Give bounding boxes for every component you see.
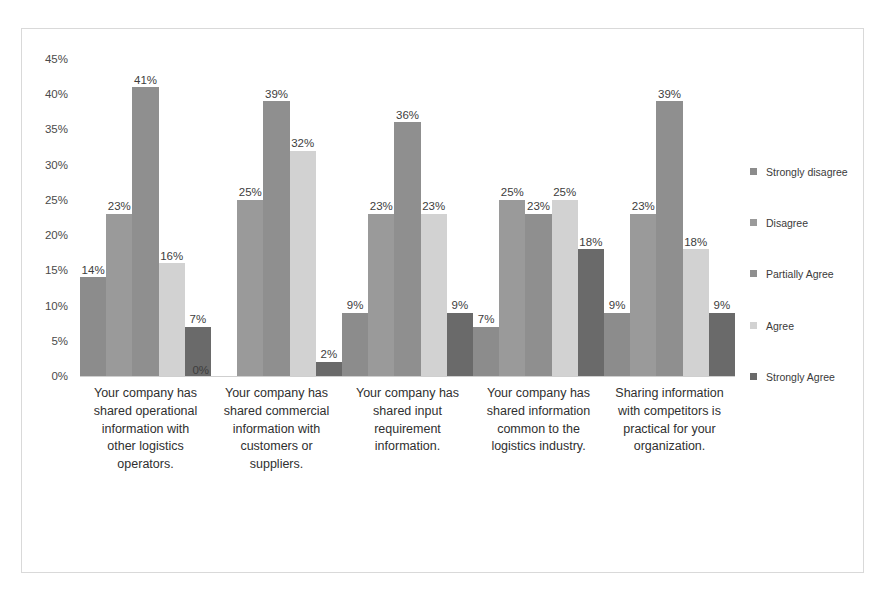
legend-item[interactable]: Disagree [750, 216, 858, 231]
bar[interactable]: 18% [683, 249, 709, 376]
chart-frame: 45%40%35%30%25%20%15%10%5%0% 14%23%41%16… [21, 28, 864, 573]
x-axis-category-label: Your company has shared operational info… [80, 385, 211, 474]
legend: Strongly disagreeDisagreePartially Agree… [750, 165, 858, 421]
bar-slot: 9% [342, 59, 368, 376]
bar-value-label: 25% [501, 187, 524, 199]
y-axis: 45%40%35%30%25%20%15%10%5%0% [22, 59, 74, 376]
bar[interactable]: 39% [263, 101, 289, 376]
bar-value-label: 41% [134, 75, 157, 87]
legend-item[interactable]: Agree [750, 319, 858, 334]
bar-value-label: 23% [527, 201, 550, 213]
bar-value-label: 18% [579, 237, 602, 249]
bar[interactable]: 9% [604, 313, 630, 376]
category-axis-line [80, 376, 735, 377]
x-axis-category-label: Your company has shared commercial infor… [211, 385, 342, 474]
bar[interactable]: 25% [237, 200, 263, 376]
bar-slot: 9% [447, 59, 473, 376]
bar-slot: 18% [683, 59, 709, 376]
legend-item[interactable]: Partially Agree [750, 267, 858, 282]
bar-slot: 25% [499, 59, 525, 376]
bar-slot: 32% [290, 59, 316, 376]
legend-item-label: Partially Agree [766, 267, 834, 282]
y-axis-tick: 35% [45, 123, 68, 135]
bar[interactable]: 7% [473, 327, 499, 376]
bar[interactable]: 18% [578, 249, 604, 376]
legend-item-label: Disagree [766, 216, 808, 231]
bar[interactable]: 25% [499, 200, 525, 376]
bar-slot: 41% [132, 59, 158, 376]
plot-area: 14%23%41%16%7%0%25%39%32%2%9%23%36%23%9%… [80, 59, 735, 376]
y-axis-tick: 40% [45, 88, 68, 100]
bar-value-label: 16% [160, 251, 183, 263]
y-axis-tick: 0% [51, 370, 68, 382]
bar-group: 14%23%41%16%7% [80, 59, 211, 376]
bar-value-label: 18% [684, 237, 707, 249]
bar-slot: 14% [80, 59, 106, 376]
bar-slot: 23% [421, 59, 447, 376]
legend-item[interactable]: Strongly Agree [750, 370, 858, 385]
bar-group: 9%23%36%23%9% [342, 59, 473, 376]
bar-slot: 0% [211, 59, 237, 376]
bar-slot: 25% [552, 59, 578, 376]
bar-value-label: 39% [265, 89, 288, 101]
bar-value-label: 39% [658, 89, 681, 101]
legend-swatch-icon [750, 270, 757, 277]
bar-slot: 36% [394, 59, 420, 376]
legend-swatch-icon [750, 373, 757, 380]
bar-group: 9%23%39%18%9% [604, 59, 735, 376]
legend-item[interactable]: Strongly disagree [750, 165, 858, 180]
bar-value-label: 7% [478, 314, 495, 326]
bar-value-label: 9% [347, 300, 364, 312]
bar[interactable]: 23% [525, 214, 551, 376]
bar-slot: 7% [185, 59, 211, 376]
bar[interactable]: 32% [290, 151, 316, 376]
y-axis-tick: 15% [45, 264, 68, 276]
bar-value-label: 32% [291, 138, 314, 150]
y-axis-tick: 25% [45, 194, 68, 206]
legend-item-label: Strongly Agree [766, 370, 835, 385]
legend-item-label: Agree [766, 319, 794, 334]
bar-value-label: 9% [714, 300, 731, 312]
y-axis-tick: 10% [45, 300, 68, 312]
bar[interactable]: 23% [368, 214, 394, 376]
bar-slot: 9% [709, 59, 735, 376]
bar-slot: 18% [578, 59, 604, 376]
bar-group-bars: 14%23%41%16%7% [80, 59, 211, 376]
bar-group-bars: 9%23%36%23%9% [342, 59, 473, 376]
bar-value-label: 23% [108, 201, 131, 213]
bar[interactable]: 23% [106, 214, 132, 376]
bar[interactable]: 23% [630, 214, 656, 376]
x-axis-category-label: Sharing information with competitors is … [604, 385, 735, 474]
bar-slot: 25% [237, 59, 263, 376]
bar-slot: 16% [159, 59, 185, 376]
bar[interactable]: 23% [421, 214, 447, 376]
bar-value-label: 23% [422, 201, 445, 213]
bar-value-label: 2% [321, 349, 338, 361]
bar-group-bars: 0%25%39%32%2% [211, 59, 342, 376]
bar[interactable]: 39% [656, 101, 682, 376]
legend-item-label: Strongly disagree [766, 165, 848, 180]
bar-slot: 23% [525, 59, 551, 376]
bar[interactable]: 9% [342, 313, 368, 376]
x-axis-labels: Your company has shared operational info… [80, 385, 735, 474]
bar[interactable]: 25% [552, 200, 578, 376]
bar-group: 0%25%39%32%2% [211, 59, 342, 376]
bar[interactable]: 41% [132, 87, 158, 376]
bar-value-label: 23% [632, 201, 655, 213]
bar-group-bars: 9%23%39%18%9% [604, 59, 735, 376]
bar[interactable]: 36% [394, 122, 420, 376]
bar-value-label: 14% [82, 265, 105, 277]
legend-swatch-icon [750, 322, 757, 329]
y-axis-tick: 45% [45, 53, 68, 65]
bar[interactable]: 2% [316, 362, 342, 376]
bar-group: 7%25%23%25%18% [473, 59, 604, 376]
bar-value-label: 7% [190, 314, 207, 326]
bar[interactable]: 9% [709, 313, 735, 376]
bar[interactable]: 16% [159, 263, 185, 376]
bar-value-label: 0% [192, 365, 209, 377]
bar-slot: 39% [263, 59, 289, 376]
bar[interactable]: 9% [447, 313, 473, 376]
bar-slot: 23% [106, 59, 132, 376]
bar-slot: 23% [630, 59, 656, 376]
bar[interactable]: 14% [80, 277, 106, 376]
